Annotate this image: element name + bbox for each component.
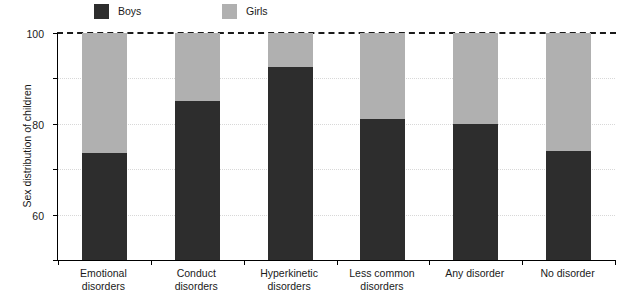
bar-segment-boys [453,124,498,260]
stacked-bar [546,33,591,260]
chart-legend: Boys Girls [0,0,632,24]
x-axis-tick [337,260,338,265]
bar-segment-boys [82,153,127,260]
stacked-bar [175,33,220,260]
legend-label-girls: Girls [246,4,268,19]
y-axis-tick: 20 [53,215,58,216]
plot-inner [58,33,615,260]
x-axis-tick [429,260,430,265]
stacked-bar [453,33,498,260]
bar-segment-girls [360,33,405,119]
x-axis-category-label-line: No disorder [511,267,624,280]
gridline [58,215,615,216]
y-axis-tick-label: 60 [32,210,44,222]
x-axis-tick [58,260,59,265]
reference-line-100 [57,32,616,34]
y-axis-tick: 60 [53,124,58,125]
plot-area: 020406080100 [57,33,615,261]
legend-label-boys: Boys [118,4,141,19]
bar-segment-girls [82,33,127,153]
bar-segment-girls [546,33,591,151]
bar-segment-boys [175,101,220,260]
x-axis-tick [151,260,152,265]
x-axis-category-label: No disorder [511,267,624,280]
legend-swatch-boys [94,4,109,19]
stacked-bar [268,33,313,260]
y-axis-tick: 0 [53,260,58,261]
y-axis-tick: 80 [53,78,58,79]
gridline [58,124,615,125]
bar-segment-boys [546,151,591,260]
x-axis-category-label-line: disorders [326,280,439,293]
bar-segment-girls [175,33,220,101]
bar-segment-boys [268,67,313,260]
y-axis-tick-label: 100 [26,28,44,40]
stacked-bar [82,33,127,260]
bar-segment-girls [453,33,498,124]
y-axis-tick: 40 [53,169,58,170]
bar-segment-boys [360,119,405,260]
y-axis-title: Sex distribution of children [21,31,33,261]
y-axis-tick-label: 80 [32,119,44,131]
x-axis-tick [522,260,523,265]
legend-item-girls: Girls [222,4,268,19]
bar-segment-girls [268,33,313,67]
gridline [58,78,615,79]
legend-swatch-girls [222,4,237,19]
x-axis-tick [615,260,616,265]
gridline [58,169,615,170]
legend-item-boys: Boys [94,4,141,19]
y-axis-tick: 100 [53,33,58,34]
x-axis-tick [244,260,245,265]
stacked-bar [360,33,405,260]
